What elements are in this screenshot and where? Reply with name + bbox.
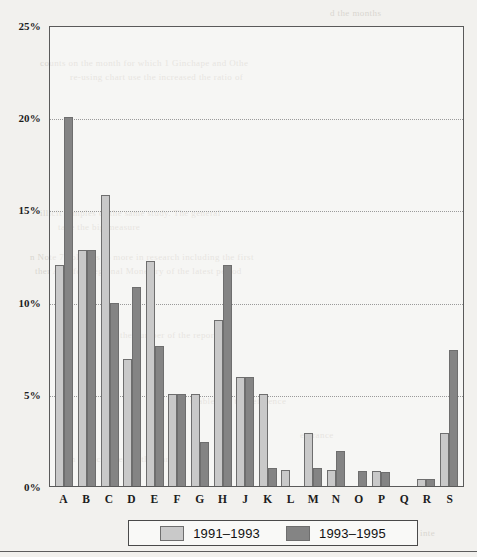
x-axis-tick-label: B: [75, 489, 98, 511]
bar-group: [256, 27, 279, 486]
x-axis-tick-label: D: [120, 489, 143, 511]
bar-group: [347, 27, 370, 486]
x-axis-tick-label: M: [302, 489, 325, 511]
bar: [236, 377, 245, 486]
x-axis-tick-label: N: [325, 489, 348, 511]
legend-swatch: [286, 526, 310, 541]
bar-group: [392, 27, 415, 486]
bar-group: [166, 27, 189, 486]
legend-item: 1991–1993: [160, 526, 260, 541]
bar-group: [211, 27, 234, 486]
bar: [268, 468, 277, 486]
x-axis-tick-label: O: [347, 489, 370, 511]
bar: [132, 287, 141, 486]
bar: [223, 265, 232, 486]
legend-swatch: [160, 526, 184, 541]
bar: [336, 451, 345, 486]
y-axis: 0%5%10%15%20%25%: [0, 0, 49, 557]
y-axis-tick-label: 20%: [18, 112, 41, 124]
y-axis-tick-label: 15%: [18, 204, 41, 216]
bar: [177, 394, 186, 486]
legend-item: 1993–1995: [286, 526, 386, 541]
x-axis-tick-label: H: [211, 489, 234, 511]
bar: [214, 320, 223, 486]
bar-group: [302, 27, 325, 486]
bar: [55, 265, 64, 486]
x-axis-tick-label: J: [234, 489, 257, 511]
bar: [146, 261, 155, 486]
bar-group: [76, 27, 99, 486]
bar-group: [279, 27, 302, 486]
bar: [191, 394, 200, 486]
bar: [281, 470, 290, 486]
bar-group: [121, 27, 144, 486]
bar: [372, 471, 381, 486]
x-axis-tick-label: F: [166, 489, 189, 511]
x-axis-tick-label: P: [370, 489, 393, 511]
x-axis-tick-label: K: [256, 489, 279, 511]
x-axis-tick-label: L: [279, 489, 302, 511]
bar: [64, 117, 73, 486]
bar: [123, 359, 132, 486]
bar: [200, 442, 209, 486]
bar-group: [143, 27, 166, 486]
bar-series-container: [50, 27, 463, 486]
bar: [381, 472, 390, 486]
bar-group: [437, 27, 460, 486]
bar: [78, 250, 87, 486]
bar: [168, 394, 177, 486]
bar-chart-figure: 0%5%10%15%20%25% ABCDEFGHJKLMNOPQRS 1991…: [0, 0, 477, 557]
bar: [245, 377, 254, 486]
bar: [313, 468, 322, 486]
x-axis-tick-label: G: [188, 489, 211, 511]
page-horizontal-rule: [0, 551, 477, 552]
bar-group: [324, 27, 347, 486]
bar: [304, 433, 313, 486]
bar: [417, 479, 426, 486]
bar: [327, 470, 336, 486]
x-axis-tick-label: R: [416, 489, 439, 511]
bar-group: [415, 27, 438, 486]
bar-group: [234, 27, 257, 486]
x-axis: ABCDEFGHJKLMNOPQRS: [49, 489, 464, 511]
x-axis-tick-label: E: [143, 489, 166, 511]
legend-label: 1991–1993: [193, 526, 260, 541]
chart-legend: 1991–19931993–1995: [128, 520, 418, 546]
bar: [449, 350, 458, 486]
legend-label: 1993–1995: [319, 526, 386, 541]
y-axis-tick-label: 10%: [18, 297, 41, 309]
bar-group: [189, 27, 212, 486]
bar: [110, 303, 119, 486]
bar: [358, 471, 367, 486]
y-axis-tick-label: 25%: [18, 20, 41, 32]
x-axis-tick-label: C: [97, 489, 120, 511]
y-axis-tick-label: 0%: [24, 481, 41, 493]
y-axis-tick-label: 5%: [24, 389, 41, 401]
bar: [101, 195, 110, 486]
bar: [440, 433, 449, 486]
bar: [87, 250, 96, 486]
bar-group: [370, 27, 393, 486]
plot-area: [49, 26, 464, 487]
x-axis-tick-label: A: [52, 489, 75, 511]
x-axis-tick-label: S: [438, 489, 461, 511]
bar-group: [98, 27, 121, 486]
bar: [155, 346, 164, 486]
bar: [426, 479, 435, 486]
bar-group: [53, 27, 76, 486]
x-axis-tick-label: Q: [393, 489, 416, 511]
bar: [259, 394, 268, 486]
